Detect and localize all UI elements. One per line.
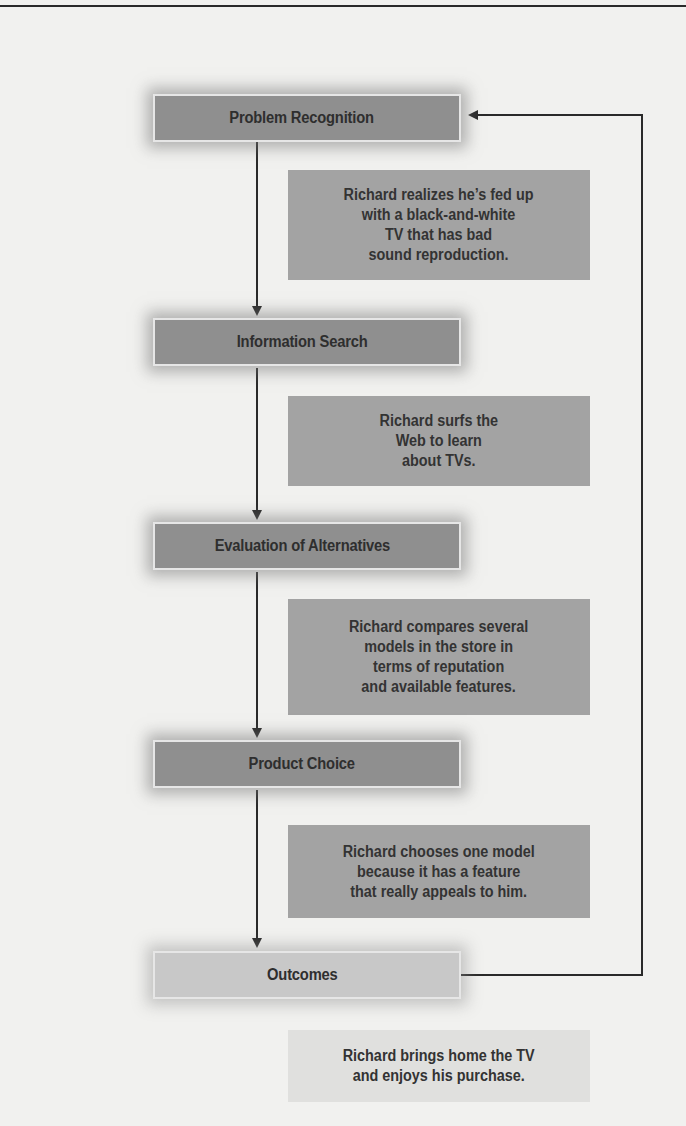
stage-label: Information Search [237,333,368,351]
stage-label: Outcomes [267,966,338,984]
stage-evaluation-of-alternatives: Evaluation of Alternatives [153,522,461,570]
stage-label: Problem Recognition [230,109,375,127]
example-information-search: Richard surfs the Web to learn about TVs… [288,396,590,486]
example-evaluation-of-alternatives: Richard compares several models in the s… [288,599,590,715]
example-problem-recognition: Richard realizes he’s fed up with a blac… [288,170,590,280]
example-outcomes: Richard brings home the TV and enjoys hi… [288,1030,590,1102]
decision-process-diagram: Problem Recognition Richard realizes he’… [0,0,686,1126]
stage-label: Product Choice [249,755,355,773]
stage-information-search: Information Search [153,318,461,366]
example-product-choice: Richard chooses one model because it has… [288,825,590,918]
example-text: Richard surfs the Web to learn about TVs… [380,411,498,471]
stage-product-choice: Product Choice [153,740,461,788]
example-text: Richard chooses one model because it has… [343,842,535,902]
stage-problem-recognition: Problem Recognition [153,94,461,142]
stage-label: Evaluation of Alternatives [214,537,389,555]
example-text: Richard realizes he’s fed up with a blac… [344,185,534,265]
example-text: Richard compares several models in the s… [349,617,528,697]
stage-outcomes: Outcomes [153,951,461,999]
example-text: Richard brings home the TV and enjoys hi… [343,1046,535,1086]
